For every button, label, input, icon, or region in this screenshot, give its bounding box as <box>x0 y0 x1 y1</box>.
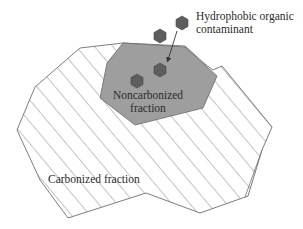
noncarbonized-label-line2: fraction <box>112 102 184 115</box>
noncarbonized-label: Noncarbonized fraction <box>112 89 184 115</box>
noncarbonized-label-line1: Noncarbonized <box>112 89 184 102</box>
contaminant-molecule-icon <box>176 16 188 30</box>
contaminant-molecule-icon <box>154 29 166 43</box>
contaminant-label: Hydrophobic organic contaminant <box>196 10 294 36</box>
contaminant-label-line2: contaminant <box>196 23 294 36</box>
contaminant-label-line1: Hydrophobic organic <box>196 10 294 23</box>
carbonized-label: Carbonized fraction <box>48 173 140 185</box>
